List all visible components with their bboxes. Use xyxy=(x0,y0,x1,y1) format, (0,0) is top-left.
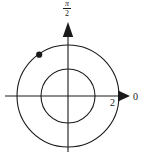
vertical-axis-label-denominator: 2 xyxy=(56,9,78,18)
polar-diagram-figure: 2 0 π 2 xyxy=(0,0,146,162)
radius-two-label: 2 xyxy=(110,97,115,108)
vertical-axis-arrowhead xyxy=(63,22,73,37)
vertical-axis-label: π 2 xyxy=(56,0,78,18)
vertical-axis-label-numerator: π xyxy=(56,0,78,8)
horizontal-axis-arrowhead xyxy=(118,91,130,102)
polar-diagram-canvas: 2 0 xyxy=(0,0,146,162)
marked-point xyxy=(36,52,42,58)
horizontal-axis-label: 0 xyxy=(133,91,138,102)
